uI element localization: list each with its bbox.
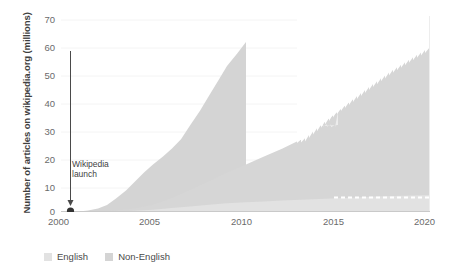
y-tick-60: 60 bbox=[15, 43, 55, 53]
wikipedia-articles-area-chart: Number of articles on wikipedia.org (mil… bbox=[0, 0, 453, 275]
annotation-line-1: Wikipedia bbox=[72, 159, 109, 169]
legend-item-non-english[interactable]: Non-English bbox=[105, 251, 170, 262]
y-axis-tick-labels: 70 60 50 40 30 20 10 0 bbox=[0, 0, 55, 275]
x-tick-2020: 2020 bbox=[414, 216, 435, 227]
plot-area bbox=[61, 16, 430, 212]
y-tick-40: 40 bbox=[15, 99, 55, 109]
x-tick-2010: 2010 bbox=[231, 216, 252, 227]
chart-legend: English Non-English bbox=[44, 251, 170, 262]
annotation-line-2: launch bbox=[72, 169, 97, 179]
wikipedia-launch-label: Wikipedialaunch bbox=[72, 160, 109, 179]
x-tick-2015: 2015 bbox=[323, 216, 344, 227]
legend-label-english: English bbox=[57, 251, 88, 262]
legend-swatch-non-english bbox=[105, 253, 113, 261]
area-chart-svg bbox=[61, 16, 430, 212]
y-tick-10: 10 bbox=[15, 183, 55, 193]
legend-swatch-english bbox=[44, 253, 52, 261]
y-tick-30: 30 bbox=[15, 127, 55, 137]
wikipedia-launch-dot bbox=[67, 207, 74, 212]
annotation-arrow-head bbox=[68, 200, 74, 206]
y-tick-20: 20 bbox=[15, 155, 55, 165]
y-tick-50: 50 bbox=[15, 71, 55, 81]
legend-label-non-english: Non-English bbox=[118, 251, 170, 262]
legend-item-english[interactable]: English bbox=[44, 251, 88, 262]
x-tick-2000: 2000 bbox=[48, 216, 69, 227]
x-tick-2005: 2005 bbox=[139, 216, 160, 227]
y-tick-70: 70 bbox=[15, 15, 55, 25]
